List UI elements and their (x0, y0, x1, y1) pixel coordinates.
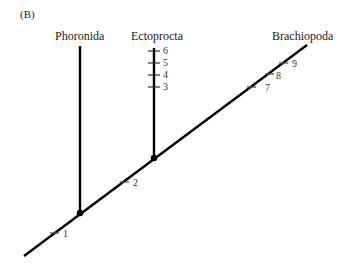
char-5: 5 (163, 57, 168, 68)
char-4: 4 (163, 69, 168, 80)
char-9: 9 (292, 58, 297, 69)
taxon-ectoprocta: Ectoprocta (131, 29, 183, 44)
char-8: 8 (276, 70, 281, 81)
node-phoronida (77, 210, 84, 217)
char-1: 1 (63, 228, 68, 239)
node-ectoprocta (151, 155, 158, 162)
char-3: 3 (163, 81, 168, 92)
taxon-brachiopoda: Brachiopoda (272, 29, 333, 44)
char-6: 6 (163, 45, 168, 56)
panel-label: (B) (20, 8, 35, 20)
taxon-phoronida: Phoronida (55, 29, 104, 44)
char-7: 7 (265, 82, 270, 93)
char-2: 2 (133, 177, 138, 188)
